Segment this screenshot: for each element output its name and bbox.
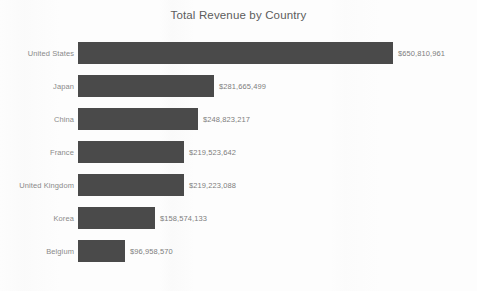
bar-chart: Total Revenue by Country United States$6…	[0, 0, 477, 291]
bar[interactable]	[78, 141, 184, 163]
plot-area: United States$650,810,961Japan$281,665,4…	[0, 42, 477, 282]
bar[interactable]	[78, 207, 155, 229]
bar-row: United States$650,810,961	[0, 42, 477, 64]
bar-value-label: $248,823,217	[203, 115, 250, 124]
bar-value-label: $96,958,570	[130, 247, 173, 256]
bar-value-label: $281,665,499	[219, 82, 266, 91]
bar[interactable]	[78, 75, 214, 97]
bar-value-label: $219,223,088	[189, 181, 236, 190]
category-label: China	[54, 115, 74, 124]
bar-value-label: $158,574,133	[160, 214, 207, 223]
category-label: Japan	[53, 82, 74, 91]
bar-value-label: $219,523,642	[189, 148, 236, 157]
category-label: Belgium	[46, 247, 74, 256]
bar-row: United Kingdom$219,223,088	[0, 174, 477, 196]
category-label: Korea	[53, 214, 74, 223]
bar-row: Belgium$96,958,570	[0, 240, 477, 262]
category-label: France	[50, 148, 74, 157]
bar-row: France$219,523,642	[0, 141, 477, 163]
category-label: United Kingdom	[19, 181, 74, 190]
bar[interactable]	[78, 108, 198, 130]
bar[interactable]	[78, 240, 125, 262]
bar-row: Korea$158,574,133	[0, 207, 477, 229]
bar[interactable]	[78, 42, 393, 64]
bar-row: China$248,823,217	[0, 108, 477, 130]
chart-title: Total Revenue by Country	[0, 9, 477, 21]
bar-row: Japan$281,665,499	[0, 75, 477, 97]
category-label: United States	[28, 49, 74, 58]
bar[interactable]	[78, 174, 184, 196]
bar-value-label: $650,810,961	[398, 49, 445, 58]
